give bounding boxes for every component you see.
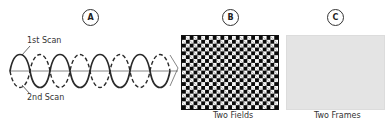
- two-frames-caption: Two Frames: [314, 111, 361, 120]
- two-frames-gray-field: [286, 35, 385, 110]
- two-fields-caption: Two Fields: [213, 111, 253, 120]
- interlace-scan-waves: [0, 0, 182, 125]
- first-scan-leader: [22, 46, 30, 55]
- two-fields-checkerboard: [181, 35, 279, 110]
- panel-b-label: B: [222, 9, 239, 26]
- second-scan-leader: [22, 85, 30, 94]
- panel-c-label: C: [327, 9, 344, 26]
- arrow-to-fields: [170, 55, 178, 86]
